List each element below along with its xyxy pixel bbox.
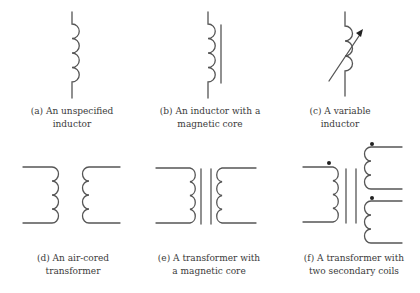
secondary-coil [83, 167, 120, 223]
caption-line: (d) An air-cored [0, 252, 148, 265]
caption-d: (d) An air-cored transformer [0, 252, 148, 277]
caption-c: (c) A variable inductor [265, 105, 415, 130]
caption-f: (f) A transformer with two secondary coi… [279, 252, 420, 277]
caption-line: a magnetic core [134, 265, 284, 278]
polarity-dot [370, 142, 374, 146]
secondary-coil [217, 168, 256, 223]
primary-coil [303, 167, 338, 222]
caption-b: (b) An inductor with a magnetic core [135, 105, 285, 130]
lower-secondary-coil [365, 201, 403, 243]
inductor-coil [72, 12, 79, 98]
caption-line: transformer [0, 265, 148, 278]
inductor-coil [345, 12, 353, 96]
caption-line: (b) An inductor with a [135, 105, 285, 118]
inductor-with-core-symbol [208, 12, 221, 98]
variable-inductor-symbol [329, 12, 363, 96]
polarity-dot [327, 161, 331, 165]
caption-e: (e) A transformer with a magnetic core [134, 252, 284, 277]
caption-a: (a) An unspecified inductor [0, 105, 147, 130]
variable-arrow-head [356, 29, 363, 37]
caption-line: (c) A variable [265, 105, 415, 118]
unspecified-inductor-symbol [72, 12, 79, 98]
upper-secondary-coil [365, 147, 403, 189]
air-cored-transformer-symbol [23, 167, 120, 223]
primary-coil [23, 167, 59, 223]
caption-line: (a) An unspecified [0, 105, 147, 118]
primary-coil [156, 168, 195, 223]
caption-line: (f) A transformer with [279, 252, 420, 265]
caption-line: magnetic core [135, 118, 285, 131]
transformer-with-core-symbol [156, 168, 256, 224]
caption-line: inductor [265, 118, 415, 131]
inductor-coil [208, 12, 215, 98]
inductor-transformer-symbols-figure [0, 0, 420, 293]
polarity-dot [370, 196, 374, 200]
transformer-two-secondaries-symbol [303, 142, 402, 243]
caption-line: two secondary coils [279, 265, 420, 278]
caption-line: (e) A transformer with [134, 252, 284, 265]
caption-line: inductor [0, 118, 147, 131]
